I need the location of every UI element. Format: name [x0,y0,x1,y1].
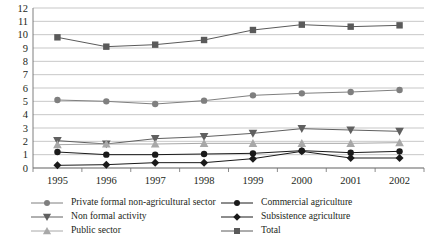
data-point-marker [396,22,402,28]
data-point-marker [200,159,208,167]
data-point-marker [152,101,158,107]
chart-legend: Private formal non-agricultural sectorNo… [31,196,352,235]
y-axis-tick-label: 7 [23,69,28,80]
legend-item[interactable]: Total [221,224,281,235]
legend-marker [234,200,240,206]
x-axis-tick-label: 2002 [389,175,410,186]
data-point-marker [250,92,256,98]
data-point-marker [201,37,207,43]
data-point-marker [152,151,158,157]
legend-item-label: Private formal non-agricultural sector [71,196,216,207]
data-point-marker [151,159,159,167]
y-axis-tick-label: 3 [23,123,28,134]
data-point-marker [298,147,306,155]
y-axis-tick-labels: 0123456789101112 [18,3,29,174]
y-axis-tick-label: 10 [18,29,29,40]
x-axis-tick-label: 1997 [145,175,166,186]
data-point-marker [299,90,305,96]
legend-item-label: Non formal activity [71,210,147,221]
y-axis-tick-label: 11 [18,16,28,27]
legend-item[interactable]: Private formal non-agricultural sector [31,196,216,207]
x-axis-tick-label: 1995 [47,175,68,186]
y-axis-tick-label: 8 [23,56,28,67]
y-axis-tick-label: 2 [23,136,28,147]
data-point-marker [103,43,109,49]
legend-item-label: Public sector [71,224,122,235]
data-point-marker [54,149,60,155]
data-point-marker [152,41,158,47]
data-point-marker [201,151,207,157]
data-point-marker [396,154,404,162]
x-axis-tick-label: 2000 [291,175,312,186]
y-axis-tick-label: 1 [23,149,28,160]
data-point-marker [201,97,207,103]
legend-marker [233,213,241,221]
data-point-marker [299,21,305,27]
y-axis-tick-label: 6 [23,83,28,94]
y-axis-tick-label: 9 [23,43,28,54]
series-markers [53,21,404,169]
data-point-marker [54,34,60,40]
data-point-marker [347,89,353,95]
legend-marker [44,200,50,206]
data-point-marker [103,98,109,104]
data-point-marker [54,97,60,103]
legend-item[interactable]: Non formal activity [31,210,147,221]
data-point-marker [396,148,402,154]
y-axis-tick-label: 4 [23,109,29,120]
y-axis-tick-label: 0 [23,163,28,174]
x-axis-tick-label: 1999 [242,175,263,186]
legend-item[interactable]: Commercial agriculture [221,196,352,207]
legend-item-label: Commercial agriculture [261,196,352,207]
x-axis-tick-label: 1998 [194,175,215,186]
legend-item[interactable]: Subsistence agriculture [221,210,350,221]
data-point-marker [347,154,355,162]
data-point-marker [347,23,353,29]
data-point-marker [250,27,256,33]
chart-canvas: 0123456789101112 19951996199719981999200… [0,0,430,244]
data-point-marker [103,151,109,157]
x-axis-tick-label: 2001 [340,175,361,186]
y-axis-tick-label: 12 [18,3,29,14]
x-axis-tick-labels: 19951996199719981999200020012002 [47,175,410,186]
x-axis-tick-label: 1996 [96,175,117,186]
data-point-marker [102,161,110,169]
x-axis [33,168,424,172]
y-axis-tick-label: 5 [23,96,28,107]
legend-item[interactable]: Public sector [31,224,122,235]
data-point-marker [396,87,402,93]
legend-item-label: Total [261,224,281,235]
data-point-marker [249,155,257,163]
legend-marker [234,228,240,234]
legend-item-label: Subsistence agriculture [261,210,350,221]
line-chart: 0123456789101112 19951996199719981999200… [0,0,430,244]
